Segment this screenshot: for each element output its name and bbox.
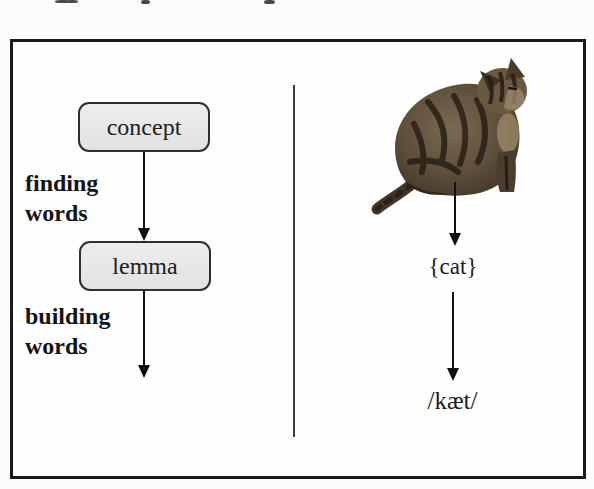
stage-label-line: building <box>25 301 110 331</box>
tabby-cat-photo <box>370 58 528 216</box>
arrow-down-lemma-to-lexeme <box>143 290 145 365</box>
node-concept: concept <box>78 102 210 152</box>
stage-label-line: words <box>25 331 110 361</box>
lemma-form-label: {cat} <box>408 254 498 280</box>
figure-frame: concept finding words lemma building wor… <box>10 39 586 479</box>
node-lemma-label: lemma <box>112 253 177 280</box>
arrow-down-cat-to-lemma-form <box>454 182 456 233</box>
stage-label-line: finding <box>25 168 98 198</box>
stage-label-line: words <box>25 198 98 228</box>
phonetic-form-label: /kæt/ <box>405 387 500 415</box>
cropped-text-fragment <box>141 0 150 4</box>
arrow-down-lemma-form-to-phonetic <box>452 292 454 368</box>
node-lemma: lemma <box>79 241 211 291</box>
cropped-text-fragment <box>66 0 78 3</box>
stage-label-finding-words: finding words <box>25 168 98 228</box>
cropped-text-fragment <box>264 0 275 4</box>
arrow-down-concept-to-lemma <box>143 152 145 228</box>
stage-label-building-words: building words <box>25 301 110 361</box>
node-concept-label: concept <box>107 114 182 141</box>
column-divider <box>293 85 295 437</box>
